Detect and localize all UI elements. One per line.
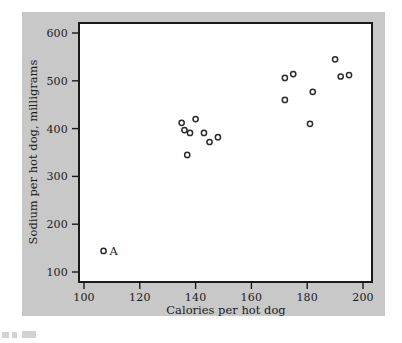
point-label-a: A	[110, 244, 118, 258]
x-tick-label: 200	[352, 291, 374, 304]
x-tick-label: 120	[129, 291, 151, 304]
x-axis-title: Calories per hot dog	[166, 303, 285, 317]
x-tick-label: 180	[296, 291, 318, 304]
scatter-data-markers	[101, 57, 352, 254]
page-edge-artifact-3	[22, 331, 36, 338]
page-edge-artifact-1	[2, 332, 9, 338]
y-axis-tick-marks	[72, 33, 78, 272]
scatter-plot-figure: 100120140160180200 100200300400500600 A …	[0, 0, 402, 343]
y-axis-title: Sodium per hot dog, milligrams	[26, 60, 40, 245]
y-tick-label: 100	[0, 266, 68, 279]
y-tick-label: 600	[0, 27, 68, 40]
x-axis-tick-marks	[84, 283, 363, 289]
page-edge-artifact-2	[12, 332, 17, 338]
x-tick-label: 100	[73, 291, 95, 304]
